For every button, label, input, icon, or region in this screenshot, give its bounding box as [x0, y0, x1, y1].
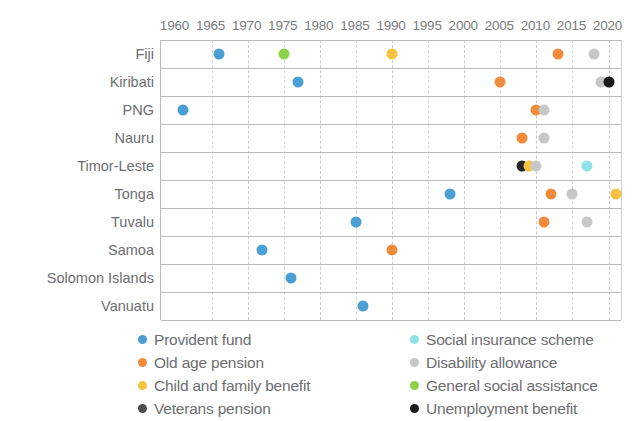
- legend-item-label: Social insurance scheme: [426, 331, 594, 349]
- x-tick-label-1995: 1995: [412, 18, 441, 33]
- legend-swatch-icon: [138, 404, 147, 413]
- legend-column-left: Provident fundOld age pensionChild and f…: [138, 328, 403, 420]
- gridline-horizontal-10: [161, 320, 621, 321]
- legend-item-label: General social assistance: [426, 377, 598, 395]
- data-point: [610, 189, 621, 200]
- data-point: [531, 161, 542, 172]
- x-tick-label-2010: 2010: [521, 18, 550, 33]
- y-tick-label-solomon-islands: Solomon Islands: [47, 270, 154, 286]
- gridline-horizontal-9: [161, 292, 621, 293]
- legend-item[interactable]: General social assistance: [410, 374, 638, 397]
- x-tick-label-1965: 1965: [196, 18, 225, 33]
- y-tick-label-nauru: Nauru: [115, 130, 155, 146]
- gridline-horizontal-2: [161, 96, 621, 97]
- legend-item-label: Child and family benefit: [154, 377, 310, 395]
- y-tick-label-kiribati: Kiribati: [110, 74, 154, 90]
- x-tick-label-2015: 2015: [557, 18, 586, 33]
- data-point: [495, 77, 506, 88]
- y-tick-label-samoa: Samoa: [108, 242, 154, 258]
- legend-item[interactable]: Provident fund: [138, 328, 403, 351]
- data-point: [553, 49, 564, 60]
- data-point: [444, 189, 455, 200]
- legend-item-label: Veterans pension: [154, 400, 271, 418]
- x-tick-label-1980: 1980: [304, 18, 333, 33]
- legend-item[interactable]: Disability allowance: [410, 351, 638, 374]
- legend-item-label: Disability allowance: [426, 354, 557, 372]
- gridline-horizontal-0: [161, 40, 621, 41]
- data-point: [350, 217, 361, 228]
- data-point: [538, 133, 549, 144]
- y-tick-label-fiji: Fiji: [135, 46, 154, 62]
- gridline-horizontal-7: [161, 236, 621, 237]
- data-point: [293, 77, 304, 88]
- y-tick-label-vanuatu: Vanuatu: [101, 298, 154, 314]
- y-tick-label-timor-leste: Timor-Leste: [77, 158, 154, 174]
- legend-item[interactable]: Old age pension: [138, 351, 403, 374]
- data-point: [358, 301, 369, 312]
- legend-item[interactable]: Veterans pension: [138, 397, 403, 420]
- legend-swatch-icon: [138, 335, 147, 344]
- data-point: [177, 105, 188, 116]
- legend-swatch-icon: [138, 381, 147, 390]
- legend-swatch-icon: [410, 404, 419, 413]
- y-tick-label-png: PNG: [123, 102, 154, 118]
- data-point: [387, 245, 398, 256]
- x-tick-label-1985: 1985: [340, 18, 369, 33]
- data-point: [538, 105, 549, 116]
- data-point: [581, 217, 592, 228]
- legend-item[interactable]: Unemployment benefit: [410, 397, 638, 420]
- social-protection-timeline-chart: 1960196519701975198019851990199520002005…: [0, 0, 638, 421]
- x-tick-label-1970: 1970: [232, 18, 261, 33]
- legend-swatch-icon: [410, 358, 419, 367]
- gridline-horizontal-4: [161, 152, 621, 153]
- data-point: [545, 189, 556, 200]
- data-point: [213, 49, 224, 60]
- data-point: [538, 217, 549, 228]
- x-tick-label-1960: 1960: [160, 18, 189, 33]
- legend-item[interactable]: Social insurance scheme: [410, 328, 638, 351]
- gridline-horizontal-6: [161, 208, 621, 209]
- x-tick-label-2020: 2020: [593, 18, 622, 33]
- legend-item[interactable]: Child and family benefit: [138, 374, 403, 397]
- data-point: [387, 49, 398, 60]
- gridline-horizontal-8: [161, 264, 621, 265]
- legend: Provident fundOld age pensionChild and f…: [138, 328, 638, 421]
- x-tick-label-1975: 1975: [268, 18, 297, 33]
- legend-swatch-icon: [138, 358, 147, 367]
- legend-column-right: Social insurance schemeDisability allowa…: [410, 328, 638, 420]
- data-point: [581, 161, 592, 172]
- data-point: [603, 77, 614, 88]
- legend-item-label: Old age pension: [154, 354, 264, 372]
- gridline-horizontal-3: [161, 124, 621, 125]
- gridline-horizontal-5: [161, 180, 621, 181]
- data-point: [516, 133, 527, 144]
- y-tick-label-tonga: Tonga: [114, 186, 154, 202]
- x-tick-label-2005: 2005: [485, 18, 514, 33]
- x-tick-label-1990: 1990: [376, 18, 405, 33]
- data-point: [257, 245, 268, 256]
- plot-area: [160, 40, 622, 320]
- x-tick-label-2000: 2000: [449, 18, 478, 33]
- data-point: [567, 189, 578, 200]
- legend-swatch-icon: [410, 381, 419, 390]
- legend-swatch-icon: [410, 335, 419, 344]
- data-point: [278, 49, 289, 60]
- data-point: [589, 49, 600, 60]
- gridline-horizontal-1: [161, 68, 621, 69]
- legend-item-label: Provident fund: [154, 331, 251, 349]
- data-point: [285, 273, 296, 284]
- y-tick-label-tuvalu: Tuvalu: [111, 214, 154, 230]
- legend-item-label: Unemployment benefit: [426, 400, 577, 418]
